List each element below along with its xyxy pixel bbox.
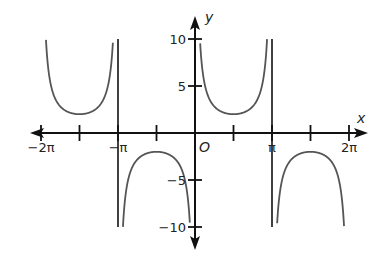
csc-graph: xyO−2π−ππ2π105−5−10 xyxy=(0,0,386,264)
origin-label: O xyxy=(199,139,210,155)
x-tick-label: −2π xyxy=(27,140,54,155)
y-tick-label: 10 xyxy=(169,32,186,47)
curve-branch-2 xyxy=(123,152,190,227)
curve-branch-4 xyxy=(277,152,344,226)
y-tick-label: −10 xyxy=(159,220,186,235)
y-axis-label: y xyxy=(204,9,214,25)
x-axis-label: x xyxy=(356,110,366,126)
x-tick-label: π xyxy=(268,140,276,155)
y-tick-label: 5 xyxy=(178,79,186,94)
axes xyxy=(30,16,368,250)
curve-branch-3 xyxy=(200,39,267,114)
x-tick-label: 2π xyxy=(341,140,357,155)
x-tick-label: −π xyxy=(109,140,128,155)
curve-branch-1 xyxy=(46,40,113,114)
y-tick-label: −5 xyxy=(167,173,186,188)
tick-labels: xyO−2π−ππ2π105−5−10 xyxy=(27,9,366,235)
